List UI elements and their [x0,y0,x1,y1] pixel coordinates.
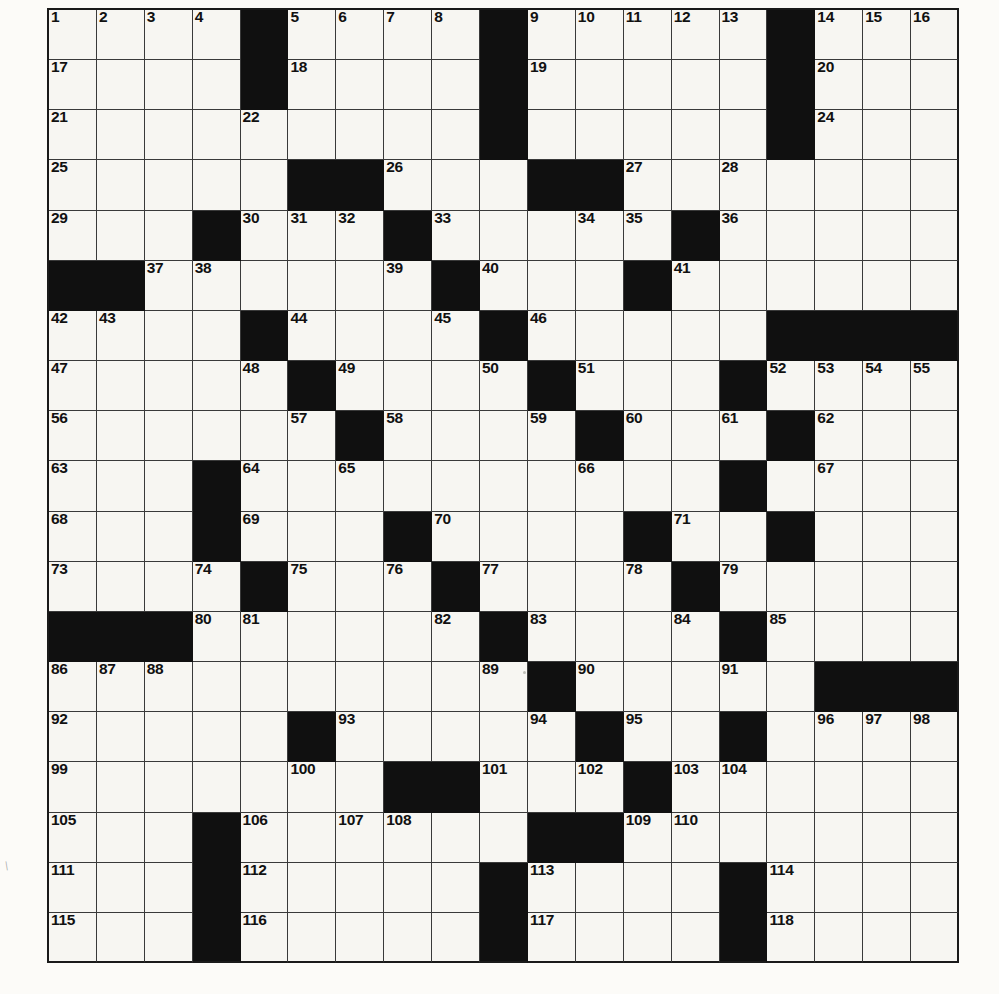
letter-square[interactable]: 53 [815,361,863,411]
letter-square[interactable]: 89 [480,662,528,712]
letter-square[interactable] [193,60,241,110]
letter-square[interactable] [97,512,145,562]
letter-square[interactable] [767,562,815,612]
letter-square[interactable] [432,913,480,963]
letter-square[interactable]: 5 [288,10,336,60]
letter-square[interactable] [720,512,768,562]
letter-square[interactable]: 100 [288,762,336,812]
letter-square[interactable] [863,863,911,913]
letter-square[interactable] [815,211,863,261]
letter-square[interactable] [911,512,959,562]
letter-square[interactable]: 81 [241,612,289,662]
letter-square[interactable] [767,813,815,863]
letter-square[interactable]: 103 [672,762,720,812]
letter-square[interactable]: 62 [815,411,863,461]
letter-square[interactable]: 6 [336,10,384,60]
letter-square[interactable] [911,562,959,612]
letter-square[interactable] [863,813,911,863]
letter-square[interactable]: 9 [528,10,576,60]
letter-square[interactable] [145,461,193,511]
letter-square[interactable]: 84 [672,612,720,662]
letter-square[interactable]: 50 [480,361,528,411]
letter-square[interactable] [767,160,815,210]
letter-square[interactable] [97,562,145,612]
letter-square[interactable] [624,311,672,361]
letter-square[interactable] [767,211,815,261]
letter-square[interactable] [97,211,145,261]
letter-square[interactable] [288,110,336,160]
letter-square[interactable] [911,211,959,261]
letter-square[interactable] [193,361,241,411]
letter-square[interactable] [97,762,145,812]
letter-square[interactable] [911,411,959,461]
letter-square[interactable]: 80 [193,612,241,662]
letter-square[interactable]: 46 [528,311,576,361]
letter-square[interactable] [336,60,384,110]
letter-square[interactable] [145,863,193,913]
letter-square[interactable]: 57 [288,411,336,461]
letter-square[interactable] [193,762,241,812]
letter-square[interactable] [911,813,959,863]
letter-square[interactable] [672,712,720,762]
letter-square[interactable] [672,662,720,712]
letter-square[interactable]: 26 [384,160,432,210]
letter-square[interactable]: 78 [624,562,672,612]
letter-square[interactable] [815,261,863,311]
letter-square[interactable] [432,411,480,461]
letter-square[interactable]: 42 [49,311,97,361]
letter-square[interactable]: 10 [576,10,624,60]
letter-square[interactable]: 39 [384,261,432,311]
letter-square[interactable]: 87 [97,662,145,712]
letter-square[interactable] [863,913,911,963]
letter-square[interactable] [815,512,863,562]
letter-square[interactable] [432,813,480,863]
letter-square[interactable]: 65 [336,461,384,511]
letter-square[interactable]: 66 [576,461,624,511]
letter-square[interactable]: 51 [576,361,624,411]
letter-square[interactable] [720,60,768,110]
letter-square[interactable]: 35 [624,211,672,261]
letter-square[interactable] [336,762,384,812]
letter-square[interactable]: 31 [288,211,336,261]
letter-square[interactable]: 19 [528,60,576,110]
letter-square[interactable] [193,160,241,210]
letter-square[interactable]: 3 [145,10,193,60]
letter-square[interactable] [815,160,863,210]
letter-square[interactable] [576,512,624,562]
letter-square[interactable]: 106 [241,813,289,863]
letter-square[interactable] [145,211,193,261]
letter-square[interactable] [384,662,432,712]
letter-square[interactable] [97,60,145,110]
letter-square[interactable] [911,160,959,210]
letter-square[interactable]: 107 [336,813,384,863]
letter-square[interactable]: 54 [863,361,911,411]
letter-square[interactable]: 77 [480,562,528,612]
letter-square[interactable] [576,261,624,311]
letter-square[interactable]: 113 [528,863,576,913]
letter-square[interactable] [624,60,672,110]
letter-square[interactable] [193,110,241,160]
letter-square[interactable] [863,261,911,311]
letter-square[interactable] [672,311,720,361]
letter-square[interactable]: 15 [863,10,911,60]
letter-square[interactable] [384,361,432,411]
letter-square[interactable]: 28 [720,160,768,210]
letter-square[interactable]: 64 [241,461,289,511]
letter-square[interactable] [145,913,193,963]
letter-square[interactable]: 2 [97,10,145,60]
letter-square[interactable]: 88 [145,662,193,712]
letter-square[interactable] [480,411,528,461]
letter-square[interactable]: 98 [911,712,959,762]
letter-square[interactable] [480,160,528,210]
letter-square[interactable] [672,913,720,963]
letter-square[interactable]: 59 [528,411,576,461]
letter-square[interactable] [815,913,863,963]
letter-square[interactable] [672,60,720,110]
letter-square[interactable]: 20 [815,60,863,110]
letter-square[interactable]: 70 [432,512,480,562]
letter-square[interactable] [815,762,863,812]
letter-square[interactable] [624,461,672,511]
letter-square[interactable]: 67 [815,461,863,511]
letter-square[interactable]: 71 [672,512,720,562]
letter-square[interactable] [911,461,959,511]
